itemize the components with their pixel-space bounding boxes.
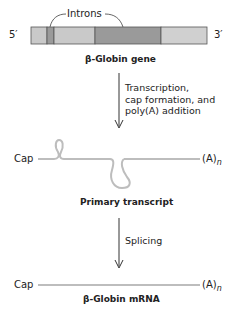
step1-line: cap formation, and: [125, 94, 215, 106]
step1-line: poly(A) addition: [125, 105, 215, 117]
gene-bar: [31, 27, 207, 44]
polya-subscript: n: [217, 284, 222, 293]
polya-text: (A): [202, 279, 217, 290]
gene-title: β-Globin gene: [85, 53, 156, 65]
polya-text: (A): [202, 153, 217, 164]
introns-bracket-left: [50, 14, 66, 27]
three-prime-label: 3′: [214, 29, 223, 41]
cap-label: Cap: [14, 153, 33, 165]
primary-transcript-title: Primary transcript: [80, 196, 173, 208]
step1-line: Transcription,: [125, 82, 215, 94]
mrna-title: β-Globin mRNA: [83, 293, 160, 305]
introns-label: Introns: [67, 8, 102, 20]
polya-subscript: n: [217, 158, 222, 167]
polya-tail-label: (A)n: [202, 153, 222, 169]
splicing-label: Splicing: [125, 235, 162, 247]
arrow-down-icon: [115, 218, 123, 268]
introns-bracket-right: [105, 14, 123, 27]
primary-transcript-strand: [38, 140, 200, 188]
arrow-down-icon: [115, 73, 123, 128]
five-prime-label: 5′: [9, 29, 18, 41]
polya-tail-label: (A)n: [202, 279, 222, 295]
step1-label: Transcription, cap formation, and poly(A…: [125, 82, 215, 117]
cap-label: Cap: [14, 279, 33, 291]
